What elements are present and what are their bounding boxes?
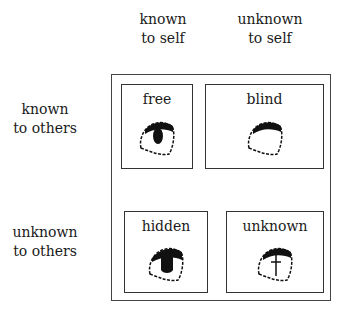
quadrant-label: hidden [125,218,207,234]
row-header-line2: to others [0,119,90,138]
eye-crossed-icon [253,244,297,284]
column-header-line2: to self [225,29,315,48]
quadrant-free: free [121,84,193,169]
column-header-known-to-self: known to self [128,10,198,48]
quadrant-label: unknown [227,218,323,234]
row-header-line1: unknown [0,223,90,242]
eye-dark-icon [144,244,188,284]
row-header-line2: to others [0,242,90,261]
quadrant-blind: blind [205,84,324,169]
row-header-unknown-to-others: unknown to others [0,223,90,261]
eye-empty-icon [243,118,287,158]
column-header-unknown-to-self: unknown to self [225,10,315,48]
quadrant-label: blind [206,91,323,107]
quadrant-hidden: hidden [124,211,208,293]
quadrant-label: free [122,91,192,107]
row-header-known-to-others: known to others [0,100,90,138]
row-header-line1: known [0,100,90,119]
column-header-line1: unknown [225,10,315,29]
column-header-line1: known [128,10,198,29]
column-header-line2: to self [128,29,198,48]
eye-open-icon [135,118,179,158]
quadrant-unknown: unknown [226,211,324,293]
